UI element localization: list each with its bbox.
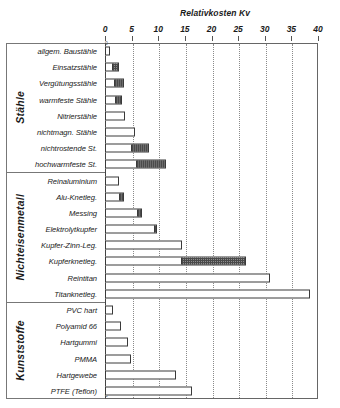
bar — [105, 322, 121, 331]
bar — [105, 79, 124, 88]
group-label-kunststoffe: Kunststoffe — [14, 302, 26, 399]
x-axis-tick-25 — [238, 36, 239, 41]
x-axis-tick-35 — [291, 36, 292, 41]
bar-upper-segment — [154, 226, 157, 233]
bar — [105, 63, 119, 72]
x-axis-tick-label-15: 15 — [180, 24, 189, 34]
gridline-30 — [266, 44, 267, 398]
group-label-nichteisenmetall: Nichteisenmetall — [14, 172, 26, 301]
x-axis-tick-label-10: 10 — [154, 24, 163, 34]
x-axis-tick-label-40: 40 — [313, 24, 322, 34]
bar — [105, 289, 310, 298]
bar — [105, 47, 110, 56]
gridline-35 — [292, 44, 293, 398]
gridline-20 — [213, 44, 214, 398]
x-axis-tick-0 — [105, 36, 106, 41]
x-axis-tick-label-30: 30 — [260, 24, 269, 34]
x-axis-tick-label-20: 20 — [207, 24, 216, 34]
chart-title: Relativkosten Kv — [150, 8, 280, 18]
bar — [105, 306, 113, 315]
x-axis-tick-20 — [212, 36, 213, 41]
bar-upper-segment — [131, 145, 148, 152]
bar — [105, 354, 131, 363]
bar-upper-segment — [137, 209, 141, 216]
x-axis-tick-label-25: 25 — [233, 24, 242, 34]
group-label-stähle: Stähle — [14, 43, 26, 172]
bar — [105, 257, 246, 266]
bar-upper-segment — [112, 64, 118, 71]
gridline-25 — [239, 44, 240, 398]
bar — [105, 192, 124, 201]
bar — [105, 273, 270, 282]
bar — [105, 95, 122, 104]
plot-area — [105, 43, 318, 399]
bar — [105, 370, 176, 379]
bar — [105, 160, 166, 169]
bar — [105, 208, 142, 217]
bar-upper-segment — [136, 161, 165, 168]
bar — [105, 128, 135, 137]
bar-upper-segment — [115, 96, 121, 103]
relative-cost-bar-chart: Relativkosten Kv 0 0 0510152025303540all… — [0, 0, 340, 408]
x-axis-tick-40 — [318, 36, 319, 41]
x-axis-tick-label-0: 0 — [103, 24, 108, 34]
gridline-10 — [159, 44, 160, 398]
x-axis-tick-5 — [132, 36, 133, 41]
x-axis-tick-label-35: 35 — [287, 24, 296, 34]
x-axis-tick-15 — [185, 36, 186, 41]
bar — [105, 176, 119, 185]
bar — [105, 338, 128, 347]
gridline-5 — [133, 44, 134, 398]
bar — [105, 241, 182, 250]
x-axis-tick-label-5: 5 — [129, 24, 134, 34]
bar — [105, 225, 157, 234]
bar-upper-segment — [181, 258, 245, 265]
x-axis-tick-30 — [265, 36, 266, 41]
bar-upper-segment — [119, 193, 123, 200]
x-axis-tick-10 — [158, 36, 159, 41]
gridline-15 — [186, 44, 187, 398]
bar — [105, 111, 125, 120]
bar — [105, 144, 149, 153]
bar-upper-segment — [114, 80, 124, 87]
bar — [105, 386, 192, 395]
